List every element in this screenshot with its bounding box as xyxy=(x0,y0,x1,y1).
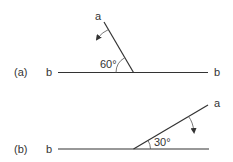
line-b-left-label: b xyxy=(46,66,52,78)
line-a-label: a xyxy=(214,97,221,109)
angle-arc-icon xyxy=(116,58,125,73)
angle-diagram: (a) b b a 60° (b) b a 30° xyxy=(0,0,233,162)
panel-a-label: (a) xyxy=(14,66,27,78)
panel-b-label: (b) xyxy=(14,143,27,155)
panel-b: (b) b a 30° xyxy=(14,97,221,155)
line-a xyxy=(134,105,209,149)
rotation-arrow-ccw-icon xyxy=(97,30,109,40)
rotation-arrow-cw-icon xyxy=(189,117,195,133)
angle-label: 60° xyxy=(100,58,117,70)
angle-arc-icon xyxy=(148,140,151,149)
panel-a: (a) b b a 60° xyxy=(14,10,220,78)
line-a-label: a xyxy=(95,10,102,22)
line-b-right-label: b xyxy=(214,66,220,78)
line-b-left-label: b xyxy=(46,143,52,155)
angle-label: 30° xyxy=(154,136,171,148)
